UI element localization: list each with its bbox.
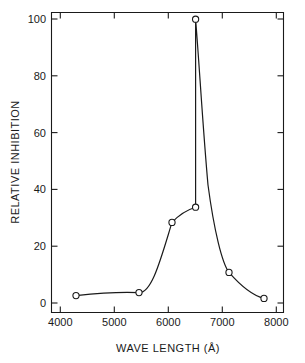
chart-figure: 100 80 60 40 20 0 4000 5000 6000 7000 80… — [0, 0, 305, 363]
x-tick-label: 6000 — [156, 316, 180, 328]
x-tick-label: 4000 — [48, 316, 72, 328]
data-point-marker — [261, 295, 267, 301]
data-point-marker — [226, 269, 232, 275]
x-tick-label: 5000 — [102, 316, 126, 328]
data-point-marker — [136, 290, 142, 296]
y-tick-label: 0 — [40, 297, 46, 309]
y-axis-title: RELATIVE INHIBITION — [9, 100, 21, 224]
data-point-marker — [73, 293, 79, 299]
x-axis-title: WAVE LENGTH (Å) — [116, 342, 220, 354]
y-tick-label: 100 — [28, 13, 46, 25]
x-tick-label: 7000 — [210, 316, 234, 328]
data-point-marker — [169, 219, 175, 225]
y-tick-label: 40 — [34, 183, 46, 195]
y-tick-label: 80 — [34, 70, 46, 82]
data-point-marker — [193, 204, 199, 210]
y-tick-label: 20 — [34, 240, 46, 252]
data-point-marker — [193, 16, 199, 22]
y-tick-label: 60 — [34, 127, 46, 139]
x-tick-label: 8000 — [264, 316, 288, 328]
